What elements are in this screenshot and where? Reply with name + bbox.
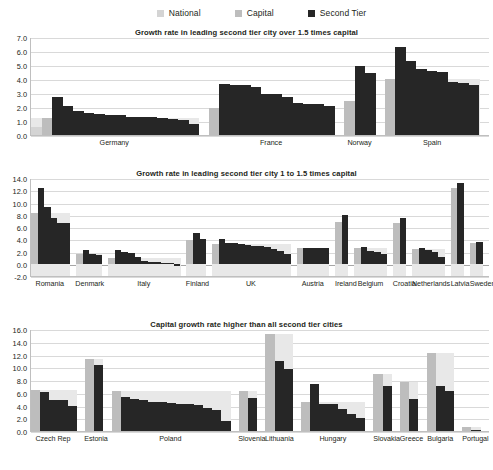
capital-bar bbox=[400, 382, 409, 431]
second-tier-bar bbox=[356, 418, 365, 431]
second-tier-bar bbox=[342, 215, 349, 263]
y-axis-tick-label: 4.0 bbox=[17, 402, 27, 411]
x-axis-labels: GermanyFranceNorwaySpain bbox=[30, 138, 489, 147]
second-tier-bar bbox=[427, 71, 438, 135]
x-axis-labels: RomaniaDenmarkItalyFinlandUKAustriaIrela… bbox=[30, 279, 489, 288]
second-tier-bar bbox=[303, 104, 314, 136]
bar-group bbox=[335, 179, 348, 276]
bar-group bbox=[470, 179, 483, 276]
bar-groups bbox=[31, 38, 489, 135]
second-tier-bar bbox=[139, 400, 148, 431]
y-axis-tick-label: 5.0 bbox=[17, 62, 27, 71]
x-axis-label: Finland bbox=[186, 279, 206, 288]
x-axis-label: Austria bbox=[296, 279, 329, 288]
second-tier-bar bbox=[476, 242, 483, 263]
second-tier-bar bbox=[319, 404, 328, 431]
legend-label: National bbox=[169, 8, 201, 18]
second-tier-bar bbox=[457, 183, 464, 264]
x-axis-label: France bbox=[208, 138, 334, 147]
y-axis-tick-label: 6.0 bbox=[17, 389, 27, 398]
capital-bar bbox=[427, 353, 436, 431]
second-tier-bar bbox=[178, 120, 189, 135]
second-tier-bar bbox=[436, 386, 445, 431]
bar-group bbox=[31, 38, 199, 135]
chart-panel-1-to-1-5x: Growth rate in leading second tier city … bbox=[0, 167, 493, 305]
second-tier-bar bbox=[383, 386, 392, 431]
second-tier-bar bbox=[248, 398, 257, 431]
bars bbox=[31, 330, 77, 431]
bars bbox=[239, 330, 257, 431]
second-tier-bar bbox=[437, 72, 448, 135]
bars bbox=[354, 179, 387, 276]
y-axis: 0.02.04.06.08.010.012.014.016.0 bbox=[0, 330, 30, 432]
bars bbox=[85, 330, 103, 431]
second-tier-bar bbox=[445, 391, 454, 431]
capital-bar bbox=[344, 101, 355, 135]
x-axis-label: Lithuania bbox=[265, 434, 293, 443]
capital-bar bbox=[373, 374, 382, 431]
bar-group bbox=[400, 330, 418, 431]
x-axis-label: Croatia bbox=[393, 279, 406, 288]
y-axis-tick-label: 0.0 bbox=[17, 132, 27, 141]
second-tier-bar bbox=[261, 94, 272, 135]
x-axis-label: UK bbox=[211, 279, 290, 288]
second-tier-bar bbox=[282, 97, 293, 136]
chart-panel-capital-higher: Capital growth rate higher than all seco… bbox=[0, 318, 493, 458]
x-axis-label: Slovakia bbox=[373, 434, 391, 443]
bar-group bbox=[412, 179, 445, 276]
y-axis: -2.00.02.04.06.08.010.012.014.0 bbox=[0, 179, 30, 277]
second-tier-bar bbox=[310, 384, 319, 431]
legend-item: Capital bbox=[235, 8, 274, 18]
bars bbox=[385, 38, 480, 135]
legend-item: National bbox=[157, 8, 201, 18]
bars bbox=[400, 330, 418, 431]
bars bbox=[462, 330, 480, 431]
bar-group bbox=[427, 330, 454, 431]
bar-group bbox=[385, 38, 480, 135]
capital-bar bbox=[85, 359, 94, 431]
second-tier-bar bbox=[73, 111, 84, 136]
x-axis-label: Greece bbox=[400, 434, 418, 443]
bars bbox=[451, 179, 464, 276]
plot-area bbox=[30, 179, 489, 277]
bars bbox=[427, 330, 454, 431]
second-tier-bar bbox=[64, 223, 71, 263]
bars bbox=[209, 38, 335, 135]
bar-group bbox=[354, 179, 387, 276]
second-tier-bar bbox=[94, 114, 105, 135]
second-tier-bar bbox=[136, 117, 147, 135]
y-axis-tick-label: 4.0 bbox=[17, 76, 27, 85]
second-tier-bar bbox=[471, 430, 480, 431]
second-tier-bar bbox=[200, 239, 207, 264]
bars bbox=[108, 179, 180, 276]
panel-title: Capital growth rate higher than all seco… bbox=[0, 320, 493, 329]
y-axis-tick-label: 10.0 bbox=[13, 364, 27, 373]
bars bbox=[212, 179, 291, 276]
second-tier-bar bbox=[121, 397, 130, 431]
second-tier-bar bbox=[219, 84, 230, 135]
bar-group bbox=[85, 330, 103, 431]
bars bbox=[335, 179, 348, 276]
second-tier-bar bbox=[438, 257, 445, 264]
capital-bar bbox=[209, 108, 220, 135]
bar-group bbox=[344, 38, 376, 135]
second-tier-bar bbox=[157, 118, 168, 135]
bar-groups bbox=[31, 179, 489, 276]
second-tier-bar bbox=[272, 94, 283, 135]
bar-group bbox=[462, 330, 480, 431]
x-axis-label: Slovenia bbox=[238, 434, 256, 443]
y-axis-tick-label: 6.0 bbox=[17, 48, 27, 57]
second-tier-bar bbox=[84, 113, 95, 135]
bars bbox=[186, 179, 206, 276]
legend-label: Second Tier bbox=[320, 8, 366, 18]
y-axis-tick-label: 2.0 bbox=[17, 415, 27, 424]
x-axis-label: Germany bbox=[30, 138, 198, 147]
panel-title: Growth rate in leading second tier city … bbox=[0, 169, 493, 178]
x-axis-label: Norway bbox=[344, 138, 376, 147]
second-tier-bar bbox=[189, 124, 200, 135]
second-tier-bar bbox=[52, 97, 63, 136]
bars bbox=[31, 179, 70, 276]
y-axis-tick-label: 1.0 bbox=[17, 118, 27, 127]
second-tier-bar bbox=[194, 405, 203, 431]
second-tier-bar bbox=[40, 392, 49, 431]
